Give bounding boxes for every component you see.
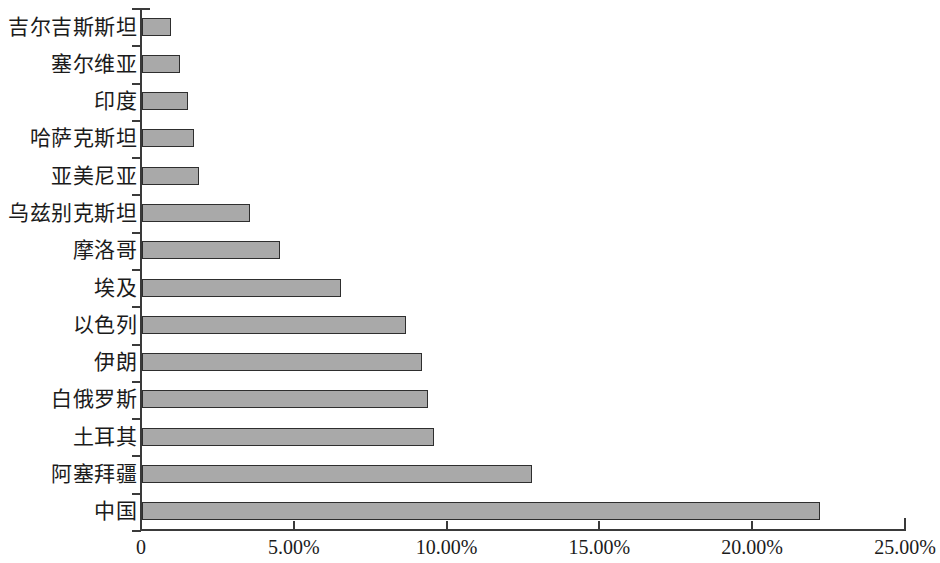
y-tick: [132, 455, 141, 457]
category-label: 摩洛哥: [0, 238, 137, 262]
bar: [142, 428, 434, 446]
y-tick: [132, 120, 141, 122]
y-tick: [132, 530, 141, 532]
category-label: 阿塞拜疆: [0, 462, 137, 486]
bar: [142, 204, 250, 222]
bar-row: 印度: [0, 83, 924, 120]
bar: [142, 18, 171, 36]
category-label: 埃及: [0, 276, 137, 300]
category-label: 哈萨克斯坦: [0, 126, 137, 150]
y-tick: [132, 45, 141, 47]
y-tick: [132, 83, 141, 85]
category-label: 伊朗: [0, 350, 137, 374]
y-tick: [132, 381, 141, 383]
bar-row: 白俄罗斯: [0, 381, 924, 418]
bar: [142, 316, 406, 334]
category-label: 亚美尼亚: [0, 164, 137, 188]
x-tick-label: 0: [61, 534, 221, 560]
y-tick: [132, 8, 141, 10]
category-label: 白俄罗斯: [0, 387, 137, 411]
x-tick: [598, 521, 600, 530]
bar-row: 埃及: [0, 269, 924, 306]
y-tick: [132, 269, 141, 271]
bar: [142, 241, 280, 259]
bar-row: 中国: [0, 493, 924, 530]
bar-row: 伊朗: [0, 344, 924, 381]
bar: [142, 390, 428, 408]
bar-row: 以色列: [0, 306, 924, 343]
category-label: 塞尔维亚: [0, 52, 137, 76]
bar: [142, 279, 341, 297]
y-tick: [132, 157, 141, 159]
y-tick: [132, 493, 141, 495]
y-tick: [132, 306, 141, 308]
bar-row: 亚美尼亚: [0, 157, 924, 194]
bar-row: 乌兹别克斯坦: [0, 194, 924, 231]
y-tick: [132, 418, 141, 420]
x-tick: [446, 521, 448, 530]
x-tick-label: 5.00%: [214, 534, 374, 560]
y-tick: [132, 194, 141, 196]
bar: [142, 167, 199, 185]
bar: [142, 55, 180, 73]
category-label: 印度: [0, 89, 137, 113]
bar-row: 摩洛哥: [0, 232, 924, 269]
x-tick-label: 15.00%: [519, 534, 679, 560]
x-tick-label: 25.00%: [825, 534, 940, 560]
x-tick: [751, 521, 753, 530]
category-label: 土耳其: [0, 425, 137, 449]
bar: [142, 502, 820, 520]
y-tick: [132, 232, 141, 234]
bar-row: 吉尔吉斯斯坦: [0, 8, 924, 45]
category-label: 以色列: [0, 313, 137, 337]
y-tick: [132, 344, 141, 346]
bar: [142, 465, 532, 483]
x-tick-label: 20.00%: [672, 534, 832, 560]
x-tick: [293, 521, 295, 530]
bar: [142, 92, 188, 110]
bar-row: 土耳其: [0, 418, 924, 455]
bar-row: 哈萨克斯坦: [0, 120, 924, 157]
bar-row: 塞尔维亚: [0, 45, 924, 82]
bar-row: 阿塞拜疆: [0, 455, 924, 492]
bar: [142, 129, 194, 147]
category-label: 中国: [0, 499, 137, 523]
category-label: 乌兹别克斯坦: [0, 201, 137, 225]
bar: [142, 353, 422, 371]
x-tick-label: 10.00%: [367, 534, 527, 560]
category-label: 吉尔吉斯斯坦: [0, 15, 137, 39]
